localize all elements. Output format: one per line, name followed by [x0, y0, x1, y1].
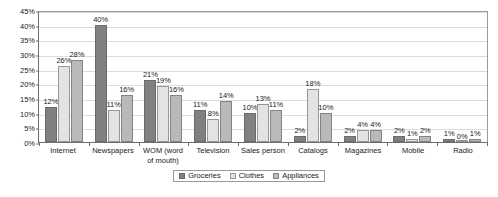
bar-group: 2%18%10%	[288, 12, 338, 142]
y-axis-tick-label: 45%	[20, 8, 35, 16]
bar-slot: 12%	[45, 12, 57, 142]
x-axis-category-label: Catalogs	[288, 146, 338, 165]
y-axis-tick-label: 5%	[24, 126, 35, 134]
bar-slot: 16%	[121, 12, 133, 142]
bar[interactable]	[294, 136, 306, 142]
bar-value-label: 1%	[407, 130, 418, 138]
bar-slot: 11%	[108, 12, 120, 142]
bar-value-label: 11%	[193, 101, 207, 109]
bar-slot: 1%	[406, 12, 418, 142]
bar-slot: 19%	[157, 12, 169, 142]
bar[interactable]	[108, 110, 120, 142]
bar[interactable]	[144, 80, 156, 142]
bar-slot: 21%	[144, 12, 156, 142]
legend-item[interactable]: Clothes	[230, 172, 264, 180]
bar[interactable]	[419, 136, 431, 142]
legend-item[interactable]: Appliances	[273, 172, 319, 180]
x-axis-category-label: Magazines	[338, 146, 388, 165]
y-axis-tick-label: 0%	[24, 140, 35, 148]
bar-value-label: 40%	[93, 16, 108, 24]
y-axis-tick-label: 30%	[20, 52, 35, 60]
x-axis-category-labels: InternetNewspapersWOM (word of mouth)Tel…	[38, 146, 488, 165]
bar[interactable]	[220, 101, 232, 142]
bar-slot: 13%	[257, 12, 269, 142]
bar[interactable]	[393, 136, 405, 142]
bar-slot: 11%	[194, 12, 206, 142]
plot-area: 0%5%10%15%20%25%30%35%40%45% 12%26%28%40…	[38, 11, 488, 143]
bar-value-label: 2%	[344, 127, 355, 135]
legend-swatch-icon	[230, 173, 236, 179]
bar-value-label: 12%	[43, 98, 58, 106]
legend: GroceriesClothesAppliances	[0, 170, 498, 182]
bar[interactable]	[207, 119, 219, 142]
bar-slot: 2%	[419, 12, 431, 142]
bar-value-label: 16%	[169, 86, 184, 94]
bar[interactable]	[58, 66, 70, 142]
legend-label: Clothes	[239, 172, 264, 180]
bar-slot: 1%	[469, 12, 481, 142]
bar[interactable]	[406, 139, 418, 142]
bar-value-label: 10%	[318, 104, 333, 112]
bar-value-label: 2%	[420, 127, 431, 135]
bar[interactable]	[257, 104, 269, 142]
bar-slot: 8%	[207, 12, 219, 142]
bar-group: 40%11%16%	[89, 12, 139, 142]
bar-slot: 11%	[270, 12, 282, 142]
x-axis-category-label: Newspapers	[88, 146, 138, 165]
bar-slot: 26%	[58, 12, 70, 142]
y-axis-tick-label: 20%	[20, 82, 35, 90]
bar-slot: 2%	[344, 12, 356, 142]
legend-item[interactable]: Groceries	[179, 172, 221, 180]
legend-swatch-icon	[179, 173, 185, 179]
y-axis-tick-label: 35%	[20, 38, 35, 46]
bar-group: 2%1%2%	[387, 12, 437, 142]
bar[interactable]	[370, 130, 382, 142]
bar-value-label: 10%	[243, 104, 258, 112]
x-axis-category-label: Sales person	[238, 146, 288, 165]
bar[interactable]	[357, 130, 369, 142]
bar[interactable]	[157, 86, 169, 142]
bar[interactable]	[469, 139, 481, 142]
bar-value-label: 0%	[457, 133, 468, 141]
legend-box: GroceriesClothesAppliances	[173, 170, 325, 182]
bar-slot: 10%	[244, 12, 256, 142]
bar[interactable]	[45, 107, 57, 142]
bar[interactable]	[443, 139, 455, 142]
bar-slot: 2%	[294, 12, 306, 142]
bar[interactable]	[121, 95, 133, 142]
bar-value-label: 19%	[156, 77, 171, 85]
x-axis-category-label: Radio	[438, 146, 488, 165]
x-axis-category-label: Mobile	[388, 146, 438, 165]
bar[interactable]	[320, 113, 332, 142]
bar-value-label: 14%	[219, 92, 234, 100]
bar-slot: 4%	[357, 12, 369, 142]
bar[interactable]	[170, 95, 182, 142]
y-axis-tick-label: 15%	[20, 96, 35, 104]
bar-value-label: 2%	[394, 127, 405, 135]
x-axis-category-label: WOM (word of mouth)	[138, 146, 188, 165]
bar-slot: 16%	[170, 12, 182, 142]
bar-chart: 0%5%10%15%20%25%30%35%40%45% 12%26%28%40…	[0, 0, 498, 197]
bar-group: 2%4%4%	[338, 12, 388, 142]
bar[interactable]	[244, 113, 256, 142]
bar[interactable]	[270, 110, 282, 142]
bar-slot: 40%	[95, 12, 107, 142]
bar-slot: 0%	[456, 12, 468, 142]
bar[interactable]	[307, 89, 319, 142]
bar-slot: 28%	[71, 12, 83, 142]
bar-value-label: 8%	[208, 110, 219, 118]
y-axis-tick-label: 25%	[20, 67, 35, 75]
bar[interactable]	[344, 136, 356, 142]
bar[interactable]	[95, 25, 107, 142]
bar[interactable]	[71, 60, 83, 142]
x-axis-category-label: Television	[188, 146, 238, 165]
x-axis-category-label: Internet	[38, 146, 88, 165]
bar-slot: 4%	[370, 12, 382, 142]
y-axis-tick-label: 40%	[20, 23, 35, 31]
bar-group: 10%13%11%	[238, 12, 288, 142]
bar-value-label: 1%	[470, 130, 481, 138]
y-axis-tick-label: 10%	[20, 111, 35, 119]
bar[interactable]	[194, 110, 206, 142]
legend-swatch-icon	[273, 173, 279, 179]
bar-value-label: 4%	[357, 121, 368, 129]
